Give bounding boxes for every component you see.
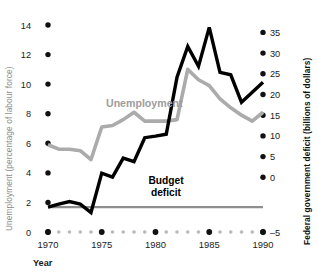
x-tick-dot-1971 [57, 230, 61, 234]
x-tick-dot-1972 [68, 230, 72, 234]
x-tick-dot-1986 [218, 230, 222, 234]
x-tick-dot-1983 [186, 230, 190, 234]
x-axis-ticks [45, 229, 266, 235]
left-tick-label-0: 0 [26, 228, 31, 238]
x-tick-dot-1988 [240, 230, 244, 234]
x-tick-label-1985: 1985 [199, 239, 220, 250]
x-tick-label-1975: 1975 [91, 239, 112, 250]
right-tick-dot-30 [260, 50, 265, 55]
right-tick-dot-5 [260, 154, 265, 159]
x-tick-dot-1990 [260, 229, 266, 235]
x-tick-label-1990: 1990 [253, 239, 274, 250]
x-tick-dot-1989 [250, 230, 254, 234]
x-tick-dot-1985 [206, 229, 212, 235]
left-tick-label-6: 6 [26, 139, 31, 149]
right-tick-label-5: 5 [270, 152, 275, 162]
right-tick-label-20: 20 [270, 90, 280, 100]
right-tick-dot-0 [260, 175, 265, 180]
left-tick-label-2: 2 [26, 198, 31, 208]
unemployment-series-label: Unemployment [106, 97, 183, 109]
x-tick-label-1970: 1970 [38, 239, 59, 250]
x-tick-dot-1979 [143, 230, 147, 234]
budget-deficit-series-label-line2: deficit [151, 187, 182, 198]
right-tick-label-30: 30 [270, 49, 280, 59]
x-tick-dot-1982 [175, 230, 179, 234]
x-tick-dot-1980 [153, 229, 159, 235]
left-axis-title: Unemployment (percentage of labour force… [4, 66, 14, 231]
x-tick-label-1980: 1980 [145, 239, 166, 250]
unemployment-line [48, 69, 263, 159]
right-tick-label-15: 15 [270, 111, 280, 121]
x-tick-dot-1973 [78, 230, 82, 234]
left-axis-ticks: 14 12 10 8 6 4 2 0 [21, 21, 51, 238]
x-tick-dot-1984 [197, 230, 201, 234]
x-tick-dot-1978 [132, 230, 136, 234]
right-tick-label-0: 0 [270, 173, 275, 183]
right-tick-label-35: 35 [270, 28, 280, 38]
chart-plot: Unemployment (percentage of labour force… [0, 0, 318, 272]
right-tick-label-25: 25 [270, 69, 280, 79]
chart-container: Unemployment (percentage of labour force… [0, 0, 318, 272]
left-tick-dot-10 [45, 81, 50, 86]
x-tick-dot-1975 [99, 229, 105, 235]
x-tick-dot-1976 [111, 230, 115, 234]
left-tick-dot-14 [45, 22, 50, 27]
right-axis-ticks: 35 30 25 20 15 10 5 0 –5 [260, 28, 280, 238]
x-axis-title: Year [33, 258, 53, 268]
right-tick-dot-25 [260, 71, 265, 76]
x-tick-dot-1970 [45, 229, 51, 235]
left-tick-dot-8 [45, 111, 50, 116]
left-tick-label-14: 14 [21, 21, 31, 31]
x-tick-dot-1977 [121, 230, 125, 234]
left-tick-dot-12 [45, 52, 50, 57]
right-tick-label-10: 10 [270, 131, 280, 141]
budget-deficit-series-label-line1: Budget [148, 175, 184, 186]
right-tick-label-minus5: –5 [270, 228, 280, 238]
left-tick-dot-4 [45, 170, 50, 175]
left-tick-dot-2 [45, 200, 50, 205]
right-tick-dot-35 [260, 30, 265, 35]
left-tick-label-10: 10 [21, 80, 31, 90]
x-tick-dot-1987 [229, 230, 233, 234]
right-axis-title: Federal government deficit (billions of … [302, 58, 312, 245]
x-tick-dot-1981 [164, 230, 168, 234]
left-tick-label-4: 4 [26, 168, 31, 178]
left-tick-label-12: 12 [21, 50, 31, 60]
left-tick-label-8: 8 [26, 109, 31, 119]
right-tick-dot-10 [260, 133, 265, 138]
right-tick-dot-20 [260, 92, 265, 97]
x-axis-tick-labels: 1970 1975 1980 1985 1990 [38, 239, 274, 250]
x-tick-dot-1974 [89, 230, 93, 234]
